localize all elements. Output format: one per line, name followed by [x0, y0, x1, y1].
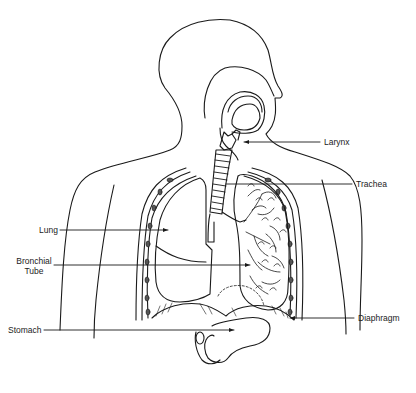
ribs-left — [145, 178, 173, 315]
trachea-shape — [210, 150, 232, 214]
respiratory-diagram: Larynx Trachea Lung Bronchial Tube Stoma… — [0, 0, 416, 393]
label-bronchial-line1: Bronchial — [14, 256, 54, 266]
bronchial-tree — [244, 184, 286, 294]
stomach-shape — [205, 317, 270, 362]
label-bronchial-tube: Bronchial Tube — [14, 256, 54, 276]
bronchus — [208, 212, 246, 242]
label-bronchial-line2: Tube — [14, 266, 54, 276]
anatomy-drawing — [0, 0, 416, 393]
label-diaphragm: Diaphragm — [358, 313, 400, 323]
label-lung: Lung — [36, 225, 58, 235]
leader-lines — [44, 142, 354, 330]
label-stomach: Stomach — [8, 325, 42, 335]
label-larynx: Larynx — [324, 137, 350, 147]
chest-wall-right-inner2 — [244, 176, 291, 316]
diaphragm-shape — [152, 304, 294, 320]
label-trachea: Trachea — [356, 179, 387, 189]
